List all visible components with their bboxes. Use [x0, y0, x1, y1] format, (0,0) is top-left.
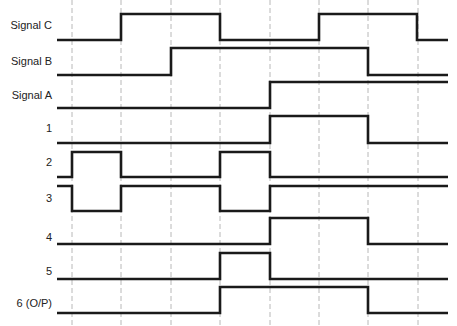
waveform	[57, 253, 448, 279]
signal-label-c: Signal C	[0, 19, 52, 31]
waveform	[57, 14, 448, 40]
waveforms	[57, 14, 448, 313]
waveform	[57, 287, 448, 313]
timing-diagram	[0, 0, 457, 326]
signal-label-a: Signal A	[0, 89, 52, 101]
signal-label-3: 3	[0, 192, 52, 204]
waveform	[57, 218, 448, 244]
signal-label-1: 1	[0, 122, 52, 134]
signal-label-2: 2	[0, 156, 52, 168]
waveform	[57, 48, 448, 75]
signal-label-6-output: 6 (O/P)	[0, 297, 52, 309]
signal-label-4: 4	[0, 231, 52, 243]
signal-label-5: 5	[0, 265, 52, 277]
waveform	[57, 82, 448, 108]
waveform	[57, 186, 448, 211]
waveform	[57, 116, 448, 143]
signal-label-b: Signal B	[0, 55, 52, 67]
waveform	[57, 152, 448, 177]
